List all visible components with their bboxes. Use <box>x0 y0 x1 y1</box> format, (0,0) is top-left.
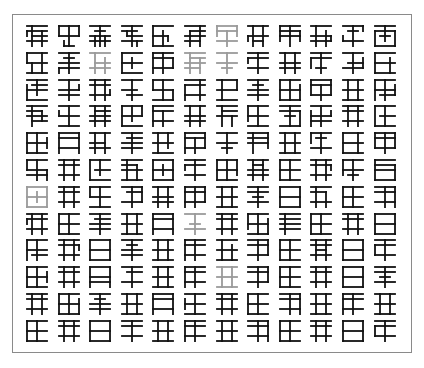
glyph-cell <box>375 106 395 126</box>
glyph-cell <box>153 240 173 260</box>
glyph-cell <box>185 187 205 207</box>
glyph-cell <box>185 160 205 180</box>
glyph-cell <box>280 133 300 153</box>
glyph-cell <box>217 187 237 207</box>
glyph-cell <box>311 187 331 207</box>
glyph-cell <box>375 133 395 153</box>
glyph-cell <box>375 321 395 341</box>
glyph-cell <box>375 26 395 46</box>
glyph-cell <box>59 133 79 153</box>
glyph-cell <box>153 80 173 100</box>
glyph-cell <box>280 214 300 234</box>
glyph-cell <box>343 106 363 126</box>
glyph-grid <box>0 0 424 368</box>
glyph-cell <box>122 160 142 180</box>
glyph-cell <box>27 294 47 314</box>
glyph-cell <box>280 106 300 126</box>
glyph-cell <box>217 160 237 180</box>
glyph-cell <box>343 160 363 180</box>
glyph-cell <box>90 80 110 100</box>
glyph-cell <box>343 321 363 341</box>
glyph-cell <box>343 26 363 46</box>
glyph-cell <box>375 294 395 314</box>
glyph-cell <box>375 53 395 73</box>
glyph-cell <box>248 214 268 234</box>
glyph-cell <box>248 160 268 180</box>
glyph-cell <box>248 80 268 100</box>
glyph-cell <box>27 133 47 153</box>
glyph-cell <box>153 321 173 341</box>
glyph-cell <box>343 187 363 207</box>
glyph-cell <box>311 294 331 314</box>
glyph-cell <box>217 294 237 314</box>
glyph-cell <box>90 53 110 73</box>
glyph-cell <box>122 53 142 73</box>
glyph-cell <box>153 267 173 287</box>
glyph-cell <box>59 240 79 260</box>
glyph-cell <box>59 106 79 126</box>
glyph-cell <box>59 267 79 287</box>
glyph-cell <box>280 160 300 180</box>
glyph-cell <box>280 240 300 260</box>
glyph-cell <box>185 133 205 153</box>
glyph-cell <box>311 321 331 341</box>
glyph-cell <box>27 240 47 260</box>
glyph-cell <box>90 106 110 126</box>
glyph-cell <box>343 267 363 287</box>
glyph-cell <box>280 321 300 341</box>
glyph-cell <box>27 80 47 100</box>
glyph-cell <box>59 214 79 234</box>
glyph-cell <box>185 267 205 287</box>
glyph-cell <box>27 321 47 341</box>
glyph-cell <box>248 187 268 207</box>
glyph-cell <box>153 53 173 73</box>
glyph-cell <box>59 53 79 73</box>
glyph-cell <box>280 267 300 287</box>
glyph-cell <box>311 53 331 73</box>
glyph-cell <box>375 214 395 234</box>
glyph-cell <box>122 106 142 126</box>
glyph-cell <box>217 26 237 46</box>
glyph-cell <box>280 294 300 314</box>
glyph-cell <box>217 133 237 153</box>
glyph-cell <box>90 267 110 287</box>
glyph-cell <box>375 187 395 207</box>
glyph-cell <box>248 106 268 126</box>
glyph-cell <box>90 321 110 341</box>
glyph-cell <box>27 53 47 73</box>
glyph-cell <box>185 214 205 234</box>
glyph-cell <box>217 321 237 341</box>
glyph-cell <box>375 80 395 100</box>
glyph-cell <box>217 106 237 126</box>
glyph-cell <box>248 133 268 153</box>
glyph-cell <box>59 187 79 207</box>
glyph-cell <box>248 267 268 287</box>
glyph-cell <box>122 26 142 46</box>
glyph-cell <box>217 53 237 73</box>
glyph-cell <box>375 240 395 260</box>
glyph-cell <box>153 294 173 314</box>
glyph-cell <box>375 267 395 287</box>
glyph-cell <box>90 240 110 260</box>
glyph-cell <box>185 53 205 73</box>
glyph-cell <box>375 160 395 180</box>
glyph-cell <box>343 240 363 260</box>
glyph-cell <box>27 214 47 234</box>
glyph-cell <box>90 294 110 314</box>
glyph-cell <box>153 133 173 153</box>
glyph-cell <box>217 214 237 234</box>
glyph-cell <box>217 80 237 100</box>
glyph-cell <box>59 160 79 180</box>
glyph-cell <box>185 26 205 46</box>
glyph-cell <box>343 214 363 234</box>
glyph-cell <box>153 106 173 126</box>
glyph-cell <box>122 214 142 234</box>
glyph-cell <box>90 133 110 153</box>
glyph-cell <box>217 267 237 287</box>
glyph-cell <box>27 160 47 180</box>
glyph-cell <box>185 240 205 260</box>
glyph-cell <box>122 267 142 287</box>
glyph-cell <box>280 187 300 207</box>
glyph-cell <box>122 80 142 100</box>
glyph-cell <box>343 80 363 100</box>
